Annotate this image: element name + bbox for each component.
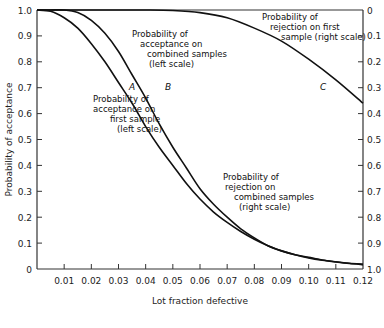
svg-text:rejection on: rejection on [225, 182, 275, 192]
y2-tick-label: 0.6 [367, 161, 382, 171]
x-tick-label: 0.09 [271, 276, 291, 286]
svg-text:(left scale): (left scale) [149, 59, 194, 69]
y-tick-label: 0.3 [18, 187, 32, 197]
curve-label-a: A [128, 82, 135, 92]
svg-text:combined samples: combined samples [147, 49, 228, 59]
y-tick-label: 0.9 [18, 31, 33, 41]
annotations: Probability ofacceptance oncombined samp… [93, 12, 366, 212]
x-tick-label: 0.12 [353, 276, 373, 286]
svg-text:Probability of: Probability of [223, 172, 280, 182]
svg-text:acceptance on: acceptance on [93, 104, 155, 114]
oc-curve-chart: 00.10.20.30.40.50.60.70.80.91.000.10.20.… [0, 0, 384, 328]
x-tick-label: 0.04 [136, 276, 156, 286]
x-axis-label: Lot fraction defective [152, 296, 248, 306]
svg-text:(left scale): (left scale) [117, 124, 162, 134]
x-tick-label: 0.11 [326, 276, 346, 286]
y2-tick-label: 0.7 [367, 187, 381, 197]
y-tick-label: 0.7 [18, 83, 32, 93]
annotation-rejection-first: Probability ofrejection on firstsample (… [262, 12, 366, 42]
svg-text:sample (right scale): sample (right scale) [281, 32, 366, 42]
y2-tick-label: 0.9 [367, 239, 382, 249]
svg-text:Probability of: Probability of [93, 94, 150, 104]
x-tick-label: 0.10 [299, 276, 319, 286]
y2-tick-label: 1.0 [367, 265, 382, 275]
svg-text:combined samples: combined samples [234, 192, 315, 202]
y2-tick-label: 0.4 [367, 109, 382, 119]
y-tick-label: 0.6 [18, 109, 33, 119]
x-tick-label: 0.05 [163, 276, 183, 286]
y-tick-label: 0.8 [18, 57, 33, 67]
x-tick-label: 0.02 [81, 276, 101, 286]
y-axis-label: Probability of acceptance [4, 82, 14, 196]
y-tick-label: 0.4 [18, 161, 33, 171]
y2-tick-label: 0.3 [367, 83, 381, 93]
y-tick-label: 1.0 [18, 6, 33, 16]
svg-text:rejection on first: rejection on first [270, 22, 340, 32]
svg-text:acceptance on: acceptance on [140, 39, 202, 49]
x-tick-label: 0.01 [54, 276, 74, 286]
svg-text:Probability of: Probability of [262, 12, 319, 22]
svg-text:(right scale): (right scale) [239, 202, 290, 212]
y-tick-label: 0.2 [18, 213, 32, 223]
annotation-rejection-combined: Probability ofrejection oncombined sampl… [223, 172, 315, 212]
svg-text:first sample: first sample [110, 114, 160, 124]
y2-tick-label: 0 [367, 6, 373, 16]
annotation-acceptance-first: Probability ofacceptance onfirst sample(… [93, 94, 162, 134]
x-tick-label: 0.08 [244, 276, 264, 286]
curve-label-b: B [165, 82, 171, 92]
svg-text:Probability of: Probability of [132, 29, 189, 39]
y2-tick-label: 0.2 [367, 57, 381, 67]
y-tick-label: 0.5 [18, 135, 32, 145]
x-tick-label: 0.07 [217, 276, 237, 286]
y-tick-label: 0 [26, 265, 32, 275]
annotation-acceptance-combined: Probability ofacceptance oncombined samp… [132, 29, 228, 69]
x-tick-label: 0.03 [108, 276, 128, 286]
curve-label-c: C [320, 82, 327, 92]
y-tick-label: 0.1 [18, 239, 32, 249]
y2-tick-label: 0.8 [367, 213, 382, 223]
y2-tick-label: 0.1 [367, 31, 381, 41]
y2-tick-label: 0.5 [367, 135, 381, 145]
x-tick-label: 0.06 [190, 276, 210, 286]
